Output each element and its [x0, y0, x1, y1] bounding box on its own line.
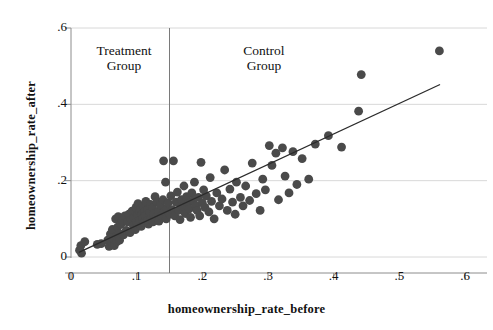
regression-line [79, 84, 440, 252]
data-point [161, 178, 170, 187]
y-tick-label-3: .6 [33, 19, 67, 35]
data-point [218, 195, 227, 204]
data-point [231, 210, 240, 219]
x-tick-label-4: .4 [314, 268, 354, 284]
data-point [274, 195, 283, 204]
data-point [252, 189, 261, 198]
x-tick-label-2: .2 [182, 268, 222, 284]
y-tick-label-0: 0 [33, 248, 67, 264]
data-point [357, 70, 366, 79]
data-point [190, 178, 199, 187]
x-axis-title: homeownership_rate_before [0, 302, 493, 317]
data-point [159, 156, 168, 165]
data-point [261, 185, 270, 194]
data-point [337, 143, 346, 152]
data-point [220, 166, 229, 175]
data-point [207, 197, 216, 206]
data-point [223, 206, 232, 215]
data-point [265, 141, 274, 150]
data-point [228, 198, 237, 207]
data-point [206, 173, 215, 182]
data-point [169, 156, 178, 165]
data-point [197, 158, 206, 167]
data-point [278, 143, 287, 152]
data-point [256, 206, 265, 215]
x-tick-label-5: .5 [379, 268, 419, 284]
data-point [80, 237, 89, 246]
data-point [304, 175, 313, 184]
data-points [75, 47, 444, 258]
data-point [173, 188, 182, 197]
data-point [236, 193, 245, 202]
data-point [292, 180, 301, 189]
data-point [186, 213, 195, 222]
data-point [180, 182, 189, 191]
data-point [285, 188, 294, 197]
data-point [241, 182, 250, 191]
y-tick-label-1: .2 [33, 172, 67, 188]
data-point [298, 154, 307, 163]
x-tick-label-1: .1 [117, 268, 157, 284]
annotation-treatment-group: Treatment Group [78, 43, 170, 73]
data-point [435, 47, 444, 56]
data-point [281, 172, 290, 181]
data-point [248, 159, 257, 168]
data-point [258, 175, 267, 184]
scatter-plot-figure: homeownership_rate_before homeownership_… [0, 0, 493, 330]
x-tick-label-6: .6 [445, 268, 485, 284]
x-tick-label-0: 0 [51, 268, 91, 284]
x-tick-label-3: .3 [248, 268, 288, 284]
y-tick-label-2: .4 [33, 95, 67, 111]
y-ticks [65, 28, 71, 257]
data-point [210, 214, 219, 223]
data-point [245, 196, 254, 205]
data-point [354, 107, 363, 116]
annotation-control-group: Control Group [218, 43, 310, 73]
data-point [226, 185, 235, 194]
data-point [195, 211, 204, 220]
